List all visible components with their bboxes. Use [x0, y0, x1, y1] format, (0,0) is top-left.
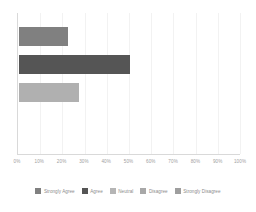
bar-strongly-agree[interactable]	[19, 27, 68, 46]
legend-label: Strongly Disagree	[183, 189, 220, 194]
bar-neutral[interactable]	[19, 83, 79, 102]
x-axis: 0%10%20%30%40%50%60%70%80%90%100%	[17, 158, 240, 170]
legend-swatch	[140, 188, 146, 194]
x-tick-label: 60%	[146, 158, 156, 166]
x-tick-label: 100%	[234, 158, 246, 166]
gridline	[240, 13, 241, 154]
x-tick-label: 40%	[101, 158, 111, 166]
legend-swatch	[175, 188, 181, 194]
bar-fill	[19, 83, 79, 102]
x-tick-label: 50%	[124, 158, 134, 166]
legend-swatch	[82, 188, 88, 194]
legend-item-neutral[interactable]: Neutral	[110, 188, 134, 194]
bar-chart: 0%10%20%30%40%50%60%70%80%90%100% Strong…	[0, 0, 256, 212]
x-tick-label: 30%	[79, 158, 89, 166]
bar-fill	[19, 55, 130, 74]
legend-item-strongly-disagree[interactable]: Strongly Disagree	[175, 188, 221, 194]
x-tick-label: 20%	[57, 158, 67, 166]
bar-agree[interactable]	[19, 55, 130, 74]
bar-series	[19, 13, 240, 154]
bar-fill	[19, 27, 68, 46]
legend-label: Neutral	[118, 189, 133, 194]
legend-label: Agree	[90, 189, 103, 194]
chart-legend: Strongly AgreeAgreeNeutralDisagreeStrong…	[0, 188, 256, 194]
plot-area	[17, 13, 240, 155]
legend-swatch	[110, 188, 116, 194]
x-tick-label: 0%	[14, 158, 21, 166]
legend-swatch	[35, 188, 41, 194]
legend-item-disagree[interactable]: Disagree	[140, 188, 167, 194]
legend-label: Disagree	[149, 189, 168, 194]
legend-item-strongly-agree[interactable]: Strongly Agree	[35, 188, 74, 194]
x-tick-label: 80%	[191, 158, 201, 166]
x-tick-label: 90%	[213, 158, 223, 166]
legend-item-agree[interactable]: Agree	[82, 188, 103, 194]
legend-label: Strongly Agree	[44, 189, 75, 194]
x-tick-label: 10%	[35, 158, 45, 166]
x-tick-label: 70%	[168, 158, 178, 166]
